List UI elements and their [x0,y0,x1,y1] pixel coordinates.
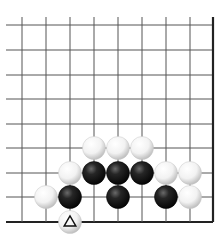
white-stone [179,186,202,209]
black-stone [107,186,130,209]
white-stone [155,162,178,185]
black-stone [107,162,130,185]
white-stone [107,137,130,160]
black-stone [131,162,154,185]
white-stone [59,162,82,185]
white-stone [83,137,106,160]
white-stone [35,186,58,209]
black-stone [83,162,106,185]
go-board [0,0,223,249]
white-stone [59,211,82,234]
white-stone [179,162,202,185]
white-stone [131,137,154,160]
black-stone [155,186,178,209]
black-stone [59,186,82,209]
